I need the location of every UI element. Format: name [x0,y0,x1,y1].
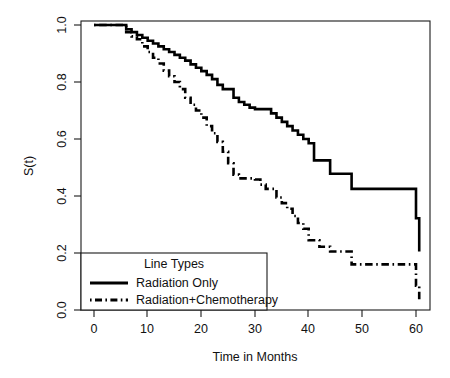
x-tick-label: 0 [91,322,98,336]
chart-canvas: 0.0 0.2 0.4 0.6 0.8 1.0 S(t) 0 10 20 30 … [0,0,450,378]
y-tick-label: 1.0 [55,16,69,33]
legend-label-radiation-chemotherapy: Radiation+Chemotherapy [136,293,279,307]
x-tick-label: 50 [355,322,369,336]
y-tick-label: 0.0 [55,301,69,318]
x-tick-label: 60 [409,322,423,336]
y-tick-label: 0.2 [55,244,69,261]
x-tick-label: 40 [301,322,315,336]
legend: Line Types Radiation Only Radiation+Chem… [81,253,279,310]
y-tick-label: 0.8 [55,73,69,90]
y-axis-title: S(t) [22,156,36,176]
legend-title: Line Types [144,257,204,271]
x-tick-label: 20 [194,322,208,336]
x-tick-label: 10 [140,322,154,336]
survival-plot-figure: 0.0 0.2 0.4 0.6 0.8 1.0 S(t) 0 10 20 30 … [0,0,450,378]
y-tick-label: 0.6 [55,130,69,147]
y-tick-label: 0.4 [55,187,69,204]
x-axis-title: Time in Months [213,350,298,364]
legend-label-radiation-only: Radiation Only [136,276,219,290]
x-tick-label: 30 [248,322,262,336]
